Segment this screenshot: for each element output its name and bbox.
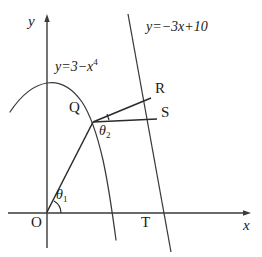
point-label-o: O [31, 215, 42, 230]
angle-label-theta-2-symbol: θ [99, 123, 106, 138]
equation-label-quartic-exponent: 4 [93, 57, 98, 67]
quartic-curve-path [10, 83, 116, 240]
equation-label-quartic-text: y=3−x [55, 59, 93, 74]
x-axis-label: x [243, 218, 250, 233]
segment-qr [93, 98, 151, 122]
angle-label-theta-2: θ2 [99, 124, 110, 138]
x-axis-arrowhead [243, 210, 251, 215]
point-label-s: S [161, 105, 169, 120]
equation-label-line: y=−3x+10 [146, 20, 208, 34]
point-label-r: R [155, 81, 165, 96]
theta-1-angle-arc [54, 201, 61, 213]
y-axis-arrowhead [44, 14, 49, 22]
x-axis [8, 210, 251, 215]
angle-label-theta-2-subscript: 2 [106, 130, 111, 140]
angle-label-theta-1-symbol: θ [56, 187, 63, 202]
y-axis-label: y [28, 14, 35, 29]
angle-label-theta-1-subscript: 1 [63, 194, 68, 204]
angle-label-theta-1: θ1 [56, 188, 67, 202]
figure-canvas: y x O Q R S T θ1 θ2 y=3−x4 y=−3x+10 [0, 0, 262, 257]
point-label-q: Q [69, 100, 80, 115]
segment-oq [47, 122, 93, 212]
point-label-t: T [141, 215, 150, 230]
equation-label-quartic: y=3−x4 [55, 60, 98, 74]
